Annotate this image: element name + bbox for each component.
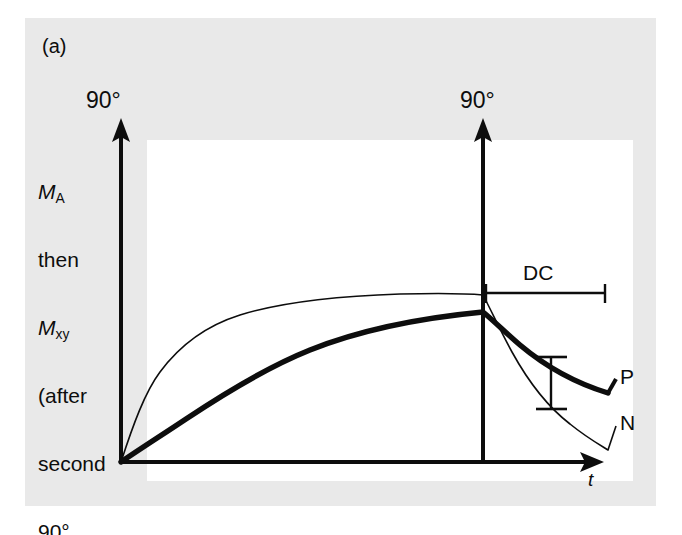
curve-n (121, 293, 608, 462)
first-pulse-label: 90° (86, 88, 121, 113)
dc-label: DC (523, 262, 553, 285)
t-axis-label: t (588, 470, 593, 491)
second-pulse-arrow (474, 118, 492, 462)
y-axis-caption-line-1: MA (38, 181, 124, 204)
subscript-xy: xy (56, 326, 70, 342)
curve-label-p: P (620, 366, 634, 389)
curve-label-n: N (620, 412, 635, 435)
second-pulse-label: 90° (460, 88, 495, 113)
y-axis-caption-line-2: then (38, 249, 124, 272)
y-axis-caption-line-6: 90° (38, 521, 124, 535)
figure-container: (a) 90° 90° MA then Mxy (after second 90… (0, 0, 682, 535)
subscript-a: A (56, 190, 65, 206)
y-axis-caption-line-5: second (38, 453, 124, 476)
symbol-m-xy: M (38, 316, 56, 339)
symbol-m-a: M (38, 180, 56, 203)
dc-bracket (486, 284, 605, 303)
y-axis-caption-line-4: (after (38, 385, 124, 408)
leader-line-p (608, 379, 616, 393)
y-axis-caption-line-3: Mxy (38, 317, 124, 340)
leader-line-n (608, 426, 616, 450)
y-axis-caption: MA then Mxy (after second 90° pulse) (38, 136, 124, 535)
x-axis (121, 452, 604, 472)
panel-letter: (a) (42, 36, 66, 58)
pn-difference-bar (536, 357, 567, 409)
